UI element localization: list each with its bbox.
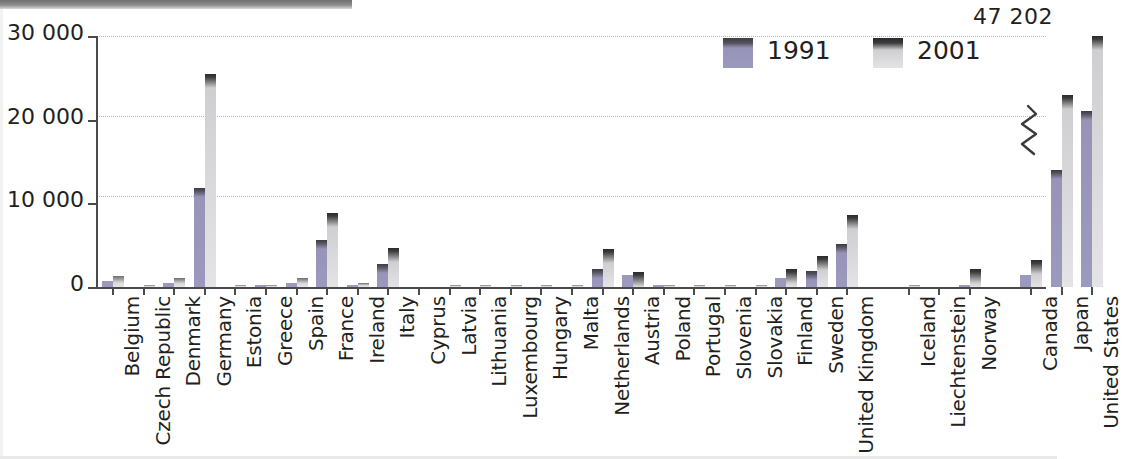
bar-group — [255, 36, 277, 287]
x-tick-sweden — [816, 287, 818, 295]
x-tick-france — [326, 287, 328, 295]
x-tick-denmark — [173, 287, 175, 295]
bar-2001-united-states — [1092, 36, 1103, 287]
bar-1991-united-states — [1081, 111, 1092, 287]
bar-group — [439, 36, 461, 287]
bar-1991-netherlands — [592, 269, 603, 287]
bar-group — [745, 36, 767, 287]
x-tick-spain — [296, 287, 298, 295]
y-tick-0 — [88, 287, 97, 289]
x-axis-label-austria: Austria — [640, 296, 664, 365]
x-tick-czech-republic — [143, 287, 145, 295]
x-axis-label-slovakia: Slovakia — [763, 296, 787, 378]
bar-2001-denmark — [174, 278, 185, 287]
overflow-value-label: 47 202 — [973, 4, 1053, 29]
x-tick-united-kingdom — [846, 287, 848, 295]
bar-2001-sweden — [817, 256, 828, 287]
x-axis-label-belgium: Belgium — [120, 296, 144, 377]
y-tick-label-20000: 20 000 — [0, 104, 84, 129]
bar-2001-norway — [970, 269, 981, 287]
x-axis-label-netherlands: Netherlands — [610, 296, 634, 416]
x-tick-austria — [632, 287, 634, 295]
x-axis-label-poland: Poland — [671, 296, 695, 362]
scan-artifact-top — [0, 0, 352, 9]
bar-group — [377, 36, 399, 287]
bar-group — [592, 36, 614, 287]
x-tick-cyprus — [418, 287, 420, 295]
x-tick-poland — [663, 287, 665, 295]
bar-group — [928, 36, 950, 287]
bar-2001-japan — [1062, 95, 1073, 287]
y-tick-20000 — [88, 120, 97, 122]
chart-legend: 1991 2001 — [723, 36, 985, 70]
x-axis-label-malta: Malta — [579, 296, 603, 350]
bar-group — [1081, 36, 1103, 287]
x-axis-label-hungary: Hungary — [548, 296, 572, 380]
bar-group — [224, 36, 246, 287]
bar-1991-austria — [622, 275, 633, 287]
legend-swatch-2001-icon — [873, 38, 903, 68]
bar-2001-belgium — [113, 276, 124, 287]
bar-1991-sweden — [806, 271, 817, 287]
x-tick-luxembourg — [510, 287, 512, 295]
x-axis-label-luxembourg: Luxembourg — [518, 296, 542, 419]
bar-1991-germany — [194, 188, 205, 287]
bar-2001-canada — [1031, 260, 1042, 287]
x-tick-portugal — [693, 287, 695, 295]
legend-swatch-1991-icon — [723, 38, 753, 68]
x-axis-label-greece: Greece — [273, 296, 297, 366]
bar-group — [286, 36, 308, 287]
x-tick-united-states — [1091, 287, 1093, 295]
x-axis-label-united-kingdom: United Kingdom — [854, 296, 878, 454]
x-axis-label-canada: Canada — [1038, 296, 1062, 371]
x-axis-label-germany: Germany — [212, 296, 236, 387]
x-tick-iceland — [908, 287, 910, 295]
x-axis-label-liechtenstein: Liechtenstein — [946, 296, 970, 428]
bar-1991-united-kingdom — [836, 244, 847, 287]
x-tick-norway — [969, 287, 971, 295]
bar-group — [133, 36, 155, 287]
x-tick-malta — [571, 287, 573, 295]
bar-group — [836, 36, 858, 287]
x-axis-label-ireland: Ireland — [365, 296, 389, 364]
x-tick-estonia — [234, 287, 236, 295]
bar-group — [959, 36, 981, 287]
x-axis-label-denmark: Denmark — [181, 296, 205, 387]
x-axis-label-iceland: Iceland — [916, 296, 940, 367]
x-tick-germany — [204, 287, 206, 295]
bar-group — [714, 36, 736, 287]
x-tick-hungary — [540, 287, 542, 295]
bar-1991-italy — [377, 264, 388, 287]
x-axis-label-portugal: Portugal — [701, 296, 725, 377]
x-axis-label-estonia: Estonia — [242, 296, 266, 368]
x-axis-label-japan: Japan — [1069, 296, 1093, 351]
bar-2001-austria — [633, 272, 644, 287]
bar-group — [469, 36, 491, 287]
bar-group — [316, 36, 338, 287]
plot-area — [96, 36, 1046, 287]
legend-label-1991: 1991 — [767, 36, 831, 65]
y-tick-label-30000: 30 000 — [0, 20, 84, 45]
bar-group — [1051, 36, 1073, 287]
bar-group — [806, 36, 828, 287]
x-tick-belgium — [112, 287, 114, 295]
x-axis-label-lithuania: Lithuania — [487, 296, 511, 387]
x-axis-label-cyprus: Cyprus — [426, 296, 450, 365]
x-tick-italy — [387, 287, 389, 295]
y-tick-label-10000: 10 000 — [0, 187, 84, 212]
bar-2001-france — [327, 213, 338, 287]
x-tick-japan — [1061, 287, 1063, 295]
x-tick-liechtenstein — [938, 287, 940, 295]
scan-edge-left — [0, 9, 3, 459]
bar-2001-netherlands — [603, 249, 614, 287]
y-axis-line — [96, 36, 98, 287]
x-tick-lithuania — [479, 287, 481, 295]
bar-1991-france — [316, 240, 327, 287]
x-tick-finland — [785, 287, 787, 295]
bar-2001-spain — [297, 278, 308, 287]
x-tick-slovakia — [755, 287, 757, 295]
bar-2001-germany — [205, 74, 216, 287]
bar-group — [194, 36, 216, 287]
legend-label-2001: 2001 — [917, 36, 981, 65]
